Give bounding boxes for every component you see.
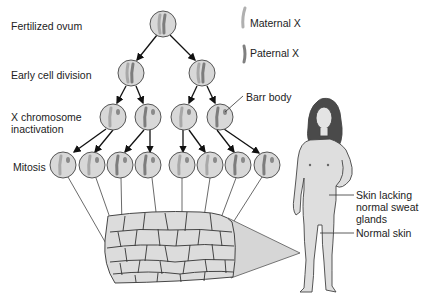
label-skin-lacking-1: Skin lacking — [356, 189, 412, 201]
label-skin-lacking-2: normal sweat — [356, 201, 418, 213]
skin-tissue-block — [105, 212, 236, 284]
fertilized-ovum-cell — [150, 11, 176, 37]
label-normal-skin: Normal skin — [356, 227, 411, 239]
maternal-x-swatch — [243, 8, 245, 27]
lineage-arrows — [74, 35, 259, 153]
paternal-x-swatch — [244, 46, 245, 62]
legend-maternal-x: Maternal X — [250, 17, 301, 29]
label-barr-body: Barr body — [246, 91, 292, 103]
x-inactivation-diagram: Fertilized ovum Early cell division X ch… — [0, 0, 427, 298]
magnification-wedge — [228, 218, 300, 278]
label-x-inactivation-line2: inactivation — [11, 123, 64, 135]
label-skin-lacking-3: glands — [356, 213, 387, 225]
legend-paternal-x: Paternal X — [250, 47, 299, 59]
label-x-inactivation-line1: X chromosome — [11, 111, 82, 123]
label-fertilized-ovum: Fertilized ovum — [11, 20, 82, 32]
diagram-graphics — [0, 0, 427, 298]
label-early-cell-division: Early cell division — [11, 69, 92, 81]
label-mitosis: Mitosis — [13, 161, 46, 173]
